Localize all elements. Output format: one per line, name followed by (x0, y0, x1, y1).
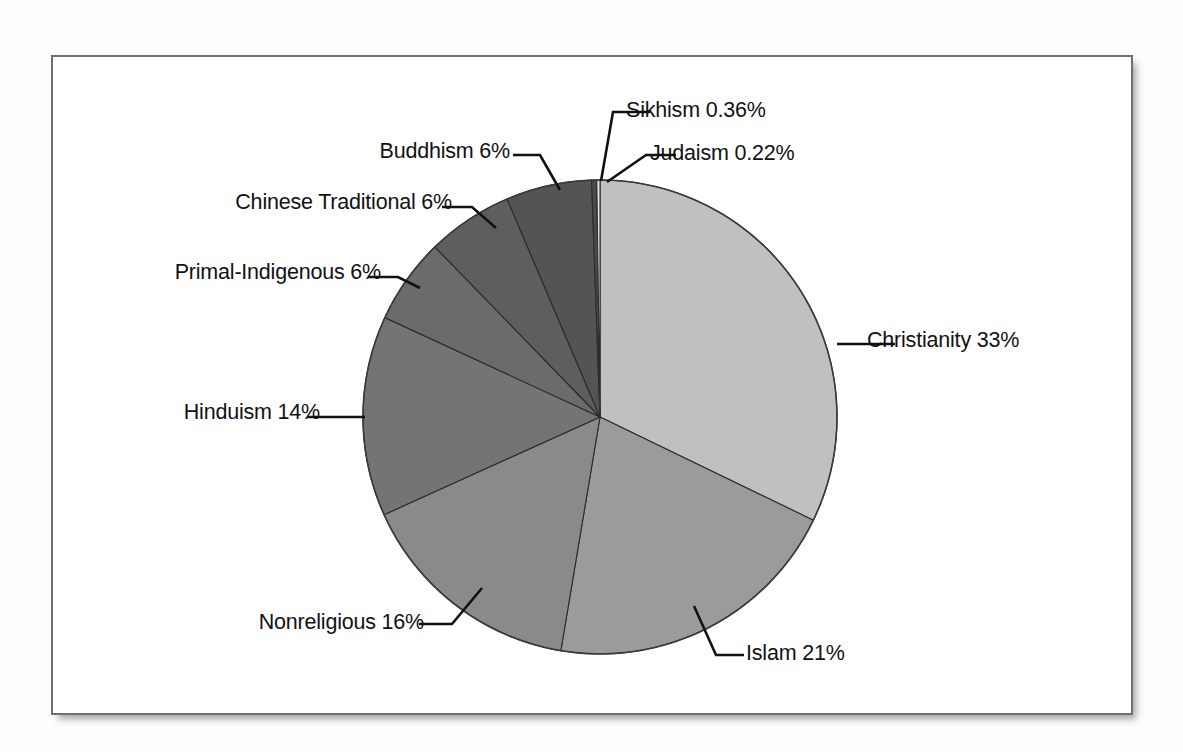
pie-label-sikhism: Sikhism 0.36% (626, 100, 766, 122)
pie-label-judaism: Judaism 0.22% (650, 143, 794, 165)
pie-chart (0, 0, 1183, 752)
pie-label-islam: Islam 21% (746, 643, 845, 665)
pie-label-chinese-traditional: Chinese Traditional 6% (235, 192, 452, 214)
pie-label-nonreligious: Nonreligious 16% (259, 612, 424, 634)
pie-slice-group (363, 180, 837, 654)
pie-label-christianity: Christianity 33% (867, 330, 1019, 352)
pie-label-primal-indigenous: Primal-Indigenous 6% (175, 262, 381, 284)
pie-label-hinduism: Hinduism 14% (184, 402, 320, 424)
pie-label-buddhism: Buddhism 6% (380, 141, 510, 163)
